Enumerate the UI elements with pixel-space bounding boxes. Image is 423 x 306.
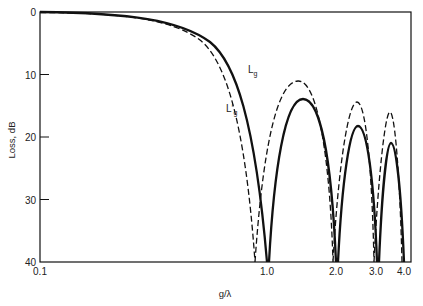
x-tick-1-0: 1.0 [260,266,274,277]
label-Lg-prime: L′g [226,103,237,117]
y-axis: 0 10 20 30 40 Loss, dB [6,7,49,268]
x-tick-4-0: 4.0 [397,266,411,277]
label-Lg: Lg [248,64,258,78]
x-axis: 0.1 1.0 2.0 3.0 4.0 g/λ [33,266,411,299]
y-axis-title: Loss, dB [6,122,17,159]
loss-chart: 0 10 20 30 40 Loss, dB 0.1 1.0 2.0 3.0 4… [0,0,423,306]
curve-Lg-prime [40,13,402,263]
x-axis-title: g/λ [219,288,232,299]
x-tick-2-0: 2.0 [329,266,343,277]
y-tick-10: 10 [25,70,37,81]
y-tick-0: 0 [30,7,36,18]
plot-frame [40,12,411,262]
svg-text:L′g: L′g [226,103,237,117]
svg-text:Lg: Lg [248,64,258,78]
y-tick-30: 30 [25,195,37,206]
x-tick-0-1: 0.1 [33,266,47,277]
y-tick-20: 20 [25,132,37,143]
curve-Lg [40,12,404,262]
x-tick-3-0: 3.0 [369,266,383,277]
